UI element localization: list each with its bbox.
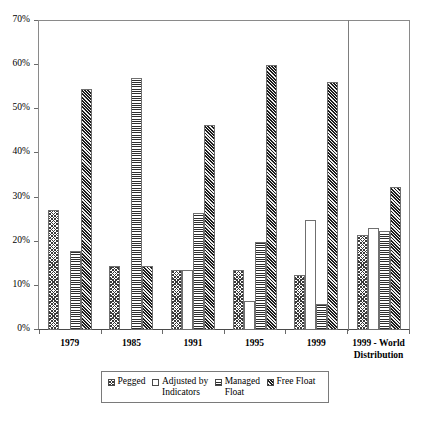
bar-group [39,21,101,330]
bar [109,266,120,330]
bar [368,228,379,330]
bar [379,231,390,330]
bar [182,270,193,330]
legend-row: PeggedAdjusted by IndicatorsManaged Floa… [108,376,322,397]
bar [131,78,142,330]
y-tick-label: 10% [13,280,30,290]
legend-label: Free Float [277,376,316,387]
bar-set [162,21,224,330]
x-tick-mark [224,330,225,334]
bar [390,187,401,330]
bar [171,270,182,330]
y-tick-label: 30% [13,192,30,202]
x-tick-label: 1991 [184,338,203,349]
x-tick-mark [162,330,163,334]
panel-separator [348,20,349,331]
y-tick-label: 0% [17,324,30,334]
legend-item[interactable]: Free Float [267,376,315,387]
legend-item[interactable]: Managed Float [215,376,260,397]
legend-item[interactable]: Adjusted by Indicators [152,376,208,397]
x-axis: 197919851991199519991999 - World Distrib… [39,334,409,368]
y-tick-label: 40% [13,148,30,158]
bar-group [285,21,347,330]
bar-group [224,21,286,330]
x-tick-mark [39,330,40,334]
bar [316,304,327,330]
legend-swatch-icon [108,379,115,386]
legend-item[interactable]: Pegged [108,376,145,387]
x-tick-label: 1979 [60,338,79,349]
bar-group [101,21,163,330]
bar-groups [39,21,409,330]
bar [357,235,368,330]
bar-group [348,21,409,330]
chart-legend: PeggedAdjusted by IndicatorsManaged Floa… [101,371,329,403]
x-tick-mark [285,330,286,334]
x-tick-label: 1985 [122,338,141,349]
bar-group [162,21,224,330]
bar [266,65,277,330]
x-tick-mark [101,330,102,334]
x-tick-label: 1995 [245,338,264,349]
bar [305,220,316,330]
y-tick-label: 50% [13,104,30,114]
x-tick-mark [347,330,348,334]
bar [142,266,153,330]
x-tick-mark [409,330,410,334]
bar [193,213,204,330]
bar-set [348,21,409,330]
bar [327,82,338,330]
bar-chart: 0%10%20%30%40%50%60%70% 1979198519911995… [0,0,425,424]
bar-set [39,21,101,330]
bar-set [101,21,163,330]
bar [81,89,92,330]
legend-swatch-icon [267,379,274,386]
bar [233,270,244,330]
legend-swatch-icon [152,379,159,386]
legend-label: Adjusted by Indicators [162,376,208,397]
legend-label: Pegged [118,376,146,387]
bar [70,251,81,330]
bar-set [224,21,286,330]
y-axis: 0%10%20%30%40%50%60%70% [0,0,38,340]
bar-set [285,21,347,330]
y-tick-label: 60% [13,59,30,69]
x-tick-label: 1999 - World Distribution [352,338,405,361]
legend-swatch-icon [215,379,222,386]
x-tick-label: 1999 [307,338,326,349]
y-tick-label: 20% [13,236,30,246]
bar [48,210,59,330]
bar [204,125,215,330]
bar [294,275,305,330]
bar [255,242,266,330]
bar [244,301,255,330]
legend-label: Managed Float [225,376,260,397]
y-tick-label: 70% [13,15,30,25]
